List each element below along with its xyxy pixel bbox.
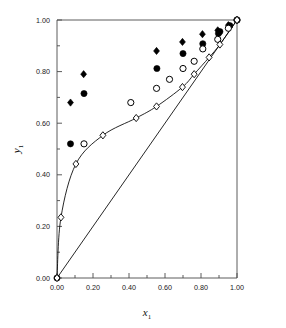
x-tick-label: 1.00: [230, 283, 244, 292]
x-tick-label: 0.60: [158, 283, 172, 292]
data-point-filled-circle: [217, 29, 223, 35]
data-point-open-circle: [180, 65, 186, 71]
x-tick-label: 0.00: [50, 283, 64, 292]
data-point-open-circle: [166, 76, 172, 82]
x-tick-label: 0.20: [86, 283, 100, 292]
y-tick-label: 0.00: [36, 274, 50, 283]
data-point-open-circle: [191, 58, 197, 64]
data-point-filled-circle: [180, 50, 186, 56]
data-point-filled-circle: [154, 65, 160, 71]
data-point-filled-circle: [67, 141, 73, 147]
y-tick-label: 0.40: [36, 170, 50, 179]
data-point-filled-circle: [81, 90, 87, 96]
data-point-open-circle: [225, 25, 231, 31]
data-point-open-circle: [200, 46, 206, 52]
y-tick-label: 0.60: [36, 119, 50, 128]
x-tick-label: 0.80: [194, 283, 208, 292]
y-tick-label: 1.00: [36, 16, 50, 25]
scatter-plot-canvas: 0.000.200.400.600.801.00 0.000.200.400.6…: [0, 0, 286, 328]
data-point-open-circle: [153, 85, 159, 91]
chart-figure: 0.000.200.400.600.801.00 0.000.200.400.6…: [0, 0, 286, 328]
data-point-open-circle: [128, 99, 134, 105]
y-tick-label: 0.80: [36, 67, 50, 76]
x-tick-label: 0.40: [122, 283, 136, 292]
data-point-open-circle: [81, 141, 87, 147]
y-tick-label: 0.20: [36, 222, 50, 231]
